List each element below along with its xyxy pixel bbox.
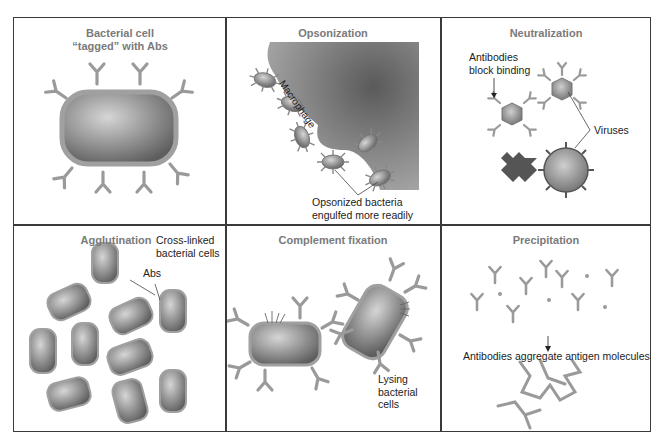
label-line: Antibodies	[469, 51, 530, 64]
panel-title-agglutination: Agglutination	[80, 234, 152, 247]
title-line: Bacterial cell	[60, 27, 180, 40]
lysing-label: Lysing bacterial cells	[378, 373, 418, 411]
cross-linked-label: Cross-linked bacterial cells	[156, 234, 220, 259]
viruses-label: Viruses	[594, 124, 629, 137]
label-line: Lysing	[378, 373, 418, 386]
caption-line: engulfed more readily	[312, 209, 413, 222]
panel-title-complement: Complement fixation	[226, 234, 440, 247]
row-divider	[13, 224, 651, 226]
label-line: Cross-linked	[156, 234, 220, 247]
antibodies-block-label: Antibodies block binding	[469, 51, 530, 76]
opsonization-caption: Opsonized bacteria engulfed more readily	[312, 196, 413, 221]
label-line: cells	[378, 398, 418, 411]
abs-label: Abs	[143, 267, 161, 280]
label-line: bacterial	[378, 386, 418, 399]
panel-title-neutralization: Neutralization	[441, 27, 651, 40]
caption-line: Opsonized bacteria	[312, 196, 413, 209]
panel-title-tagged: Bacterial cell “tagged” with Abs	[60, 27, 180, 53]
panel-title-opsonization: Opsonization	[226, 27, 440, 40]
panel-title-precipitation: Precipitation	[441, 234, 651, 247]
title-line: “tagged” with Abs	[60, 40, 180, 53]
label-line: bacterial cells	[156, 247, 220, 260]
precipitation-caption: Antibodies aggregate antigen molecules	[463, 350, 650, 363]
label-line: block binding	[469, 64, 530, 77]
